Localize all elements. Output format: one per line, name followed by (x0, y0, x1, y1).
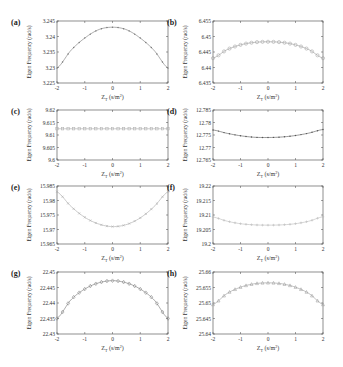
panel-label: (b) (167, 18, 177, 27)
y-tick-label: 9.62 (45, 107, 55, 113)
data-point-marker (311, 132, 312, 133)
x-tick-label: 2 (322, 246, 325, 252)
data-point-marker (289, 223, 292, 226)
x-tick-label: -1 (238, 162, 243, 168)
y-tick-label: 12.77 (199, 145, 212, 151)
y-axis-label: Eigen Frequency (rad/s) (26, 188, 33, 241)
subplot-b: -2-10126.4356.446.4456.456.455(b)Eigen F… (167, 18, 325, 102)
data-point-marker (223, 132, 224, 133)
data-point-marker (317, 130, 318, 131)
x-tick-label: 1 (294, 246, 297, 252)
data-point-marker (139, 217, 141, 219)
y-tick-label: 25.66 (199, 269, 212, 275)
x-tick-label: 0 (267, 85, 270, 91)
subplot-h: -2-101225.6425.64525.6525.65525.66(h)Eig… (167, 269, 325, 353)
data-point-marker (84, 37, 85, 38)
data-point-marker (234, 134, 235, 135)
y-tick-label: 25.655 (196, 285, 211, 291)
y-tick-label: 25.64 (199, 331, 212, 337)
y-axis-label: Eigen Frequency (rad/s) (26, 108, 33, 161)
data-point-marker (283, 223, 286, 226)
x-tick-label: 1 (294, 162, 297, 168)
x-tick-label: 2 (322, 162, 325, 168)
y-tick-label: 19.205 (196, 227, 211, 233)
subplot-f: -2-101219.219.20519.2119.21519.22(f)Eige… (167, 183, 325, 263)
x-tick-label: 2 (167, 336, 170, 342)
y-tick-label: 12.765 (196, 157, 211, 163)
y-tick-label: 15.98 (43, 198, 56, 204)
data-point-marker (322, 215, 325, 218)
data-line (57, 281, 168, 319)
data-point-marker (217, 217, 220, 220)
y-tick-label: 3.225 (43, 80, 56, 86)
x-tick-label: 2 (322, 336, 325, 342)
y-axis-label: Eigen Frequency (rad/s) (26, 276, 33, 329)
plot-frame (213, 110, 323, 160)
data-point-marker (134, 33, 135, 34)
plot-frame (57, 110, 168, 160)
x-tick-label: 2 (322, 85, 325, 91)
data-point-marker (261, 224, 264, 227)
x-tick-label: 1 (139, 246, 142, 252)
x-tick-label: -1 (82, 336, 87, 342)
data-point-marker (140, 37, 141, 38)
data-point-marker (245, 223, 248, 226)
y-tick-label: 3.24 (45, 34, 55, 40)
data-point-marker (295, 135, 296, 136)
y-tick-label: 3.23 (45, 65, 55, 71)
data-point-marker (267, 224, 270, 227)
x-tick-label: -2 (55, 85, 60, 91)
x-tick-label: -2 (211, 246, 216, 252)
panel-label: (c) (11, 107, 20, 116)
x-tick-label: 0 (267, 162, 270, 168)
data-point-marker (316, 217, 319, 220)
x-axis-label: ZT (s/m2) (257, 170, 279, 179)
data-point-marker (67, 202, 69, 204)
data-point-marker (151, 47, 152, 48)
data-point-marker (250, 223, 253, 226)
data-point-marker (228, 220, 231, 223)
data-point-marker (218, 130, 219, 131)
data-point-marker (300, 134, 301, 135)
plot-frame (57, 272, 168, 334)
data-point-marker (101, 28, 102, 29)
data-point-marker (240, 135, 241, 136)
y-axis-label: Eigen Frequency (rad/s) (182, 276, 189, 329)
data-point-marker (73, 47, 74, 48)
y-tick-label: 22.43 (43, 331, 56, 337)
data-point-marker (272, 224, 275, 227)
x-tick-label: 0 (111, 246, 114, 252)
data-point-marker (89, 219, 91, 221)
y-tick-label: 22.445 (40, 285, 55, 291)
y-tick-label: 15.985 (40, 183, 55, 189)
y-tick-label: 15.965 (40, 241, 55, 247)
plot-frame (57, 186, 168, 244)
y-tick-label: 6.44 (201, 65, 211, 71)
data-point-marker (162, 61, 163, 62)
panel-label: (g) (11, 269, 21, 278)
figure-svg: -2-10123.2253.233.2353.243.245(a)Eigen F… (0, 0, 343, 367)
x-tick-label: -2 (55, 336, 60, 342)
data-point-marker (251, 136, 252, 137)
data-point-marker (95, 30, 96, 31)
x-axis-label: ZT (s/m2) (101, 254, 123, 263)
y-tick-label: 9.61 (45, 132, 55, 138)
x-tick-label: 0 (267, 246, 270, 252)
data-point-marker (311, 219, 314, 222)
y-tick-label: 6.445 (199, 49, 212, 55)
data-point-marker (167, 67, 168, 68)
x-tick-label: 1 (294, 336, 297, 342)
data-point-marker (61, 196, 63, 198)
x-tick-label: -2 (55, 246, 60, 252)
x-tick-label: 1 (139, 162, 142, 168)
data-point-marker (322, 129, 323, 130)
data-point-marker (300, 222, 303, 225)
x-tick-label: 0 (111, 85, 114, 91)
y-tick-label: 12.785 (196, 107, 211, 113)
x-tick-label: -1 (238, 336, 243, 342)
data-point-marker (145, 213, 147, 215)
panel-label: (h) (167, 269, 177, 278)
x-tick-label: -1 (238, 246, 243, 252)
data-point-marker (156, 203, 158, 205)
y-tick-label: 15.97 (43, 227, 56, 233)
